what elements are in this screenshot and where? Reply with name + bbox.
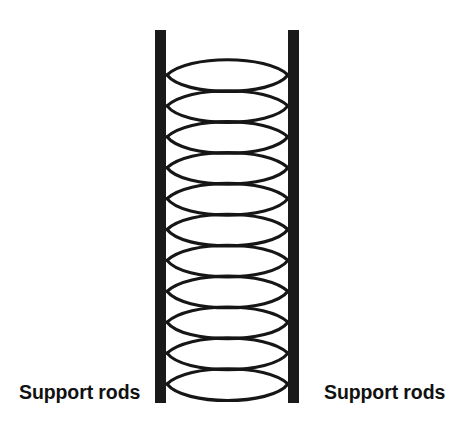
coil-spring-diagram [0,0,473,426]
support-rods-label-left: Support rods [19,382,140,402]
figure-canvas: Support rods Support rods [0,0,473,426]
support-rods-label-right: Support rods [324,382,445,402]
support-rod-right [288,30,299,403]
support-rod-left [155,30,166,403]
